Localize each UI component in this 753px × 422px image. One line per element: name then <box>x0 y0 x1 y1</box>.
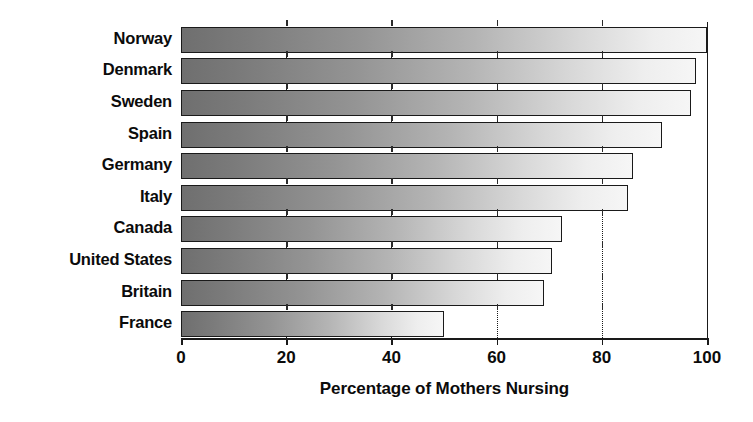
bar-fill-denmark <box>181 58 696 84</box>
grid-tick-stub <box>602 241 604 247</box>
grid-tick-stub <box>602 209 604 215</box>
bar-fill-sweden <box>181 90 691 116</box>
grid-tick-stub <box>391 83 393 89</box>
grid-tick-stub <box>497 51 499 57</box>
category-label-sweden: Sweden <box>0 93 172 110</box>
grid-tick-stub <box>497 115 499 121</box>
bar-fill-spain <box>181 122 662 148</box>
grid-tick-stub <box>391 20 393 26</box>
bar-britain <box>181 280 550 306</box>
bar-italy <box>181 185 634 211</box>
category-label-united-states: United States <box>0 251 172 268</box>
bar-united-states <box>181 248 558 274</box>
grid-tick-stub <box>391 273 393 279</box>
grid-tick-stub <box>602 115 604 121</box>
axis-tick-label-40: 40 <box>361 349 421 366</box>
bar-fill-italy <box>181 185 628 211</box>
bar-spain <box>181 122 668 148</box>
axis-tick-60 <box>497 338 499 345</box>
bar-germany <box>181 153 639 179</box>
grid-tick-stub <box>391 51 393 57</box>
grid-tick-stub <box>391 209 393 215</box>
axis-tick-80 <box>602 338 604 345</box>
bar-chart: Norway Denmark Sweden Spain Germany Ital… <box>0 0 753 422</box>
bar-fill-britain <box>181 280 544 306</box>
grid-tick-stub <box>497 209 499 215</box>
category-label-germany: Germany <box>0 156 172 173</box>
axis-tick-0 <box>181 338 183 345</box>
category-label-britain: Britain <box>0 283 172 300</box>
grid-tick-stub <box>602 304 604 310</box>
grid-tick-stub <box>497 178 499 184</box>
category-label-france: France <box>0 314 172 331</box>
axis-tick-20 <box>286 338 288 345</box>
grid-tick-stub <box>286 146 288 152</box>
bar-fill-germany <box>181 153 633 179</box>
grid-tick-stub <box>602 51 604 57</box>
bar-sweden <box>181 90 697 116</box>
axis-tick-100 <box>707 338 709 345</box>
grid-tick-stub <box>497 304 499 310</box>
grid-tick-stub <box>286 241 288 247</box>
category-label-spain: Spain <box>0 125 172 142</box>
axis-line-100 <box>707 22 708 338</box>
axis-tick-label-80: 80 <box>572 349 632 366</box>
category-label-canada: Canada <box>0 219 172 236</box>
grid-tick-stub <box>286 51 288 57</box>
grid-tick-stub <box>391 146 393 152</box>
grid-tick-stub <box>497 146 499 152</box>
axis-tick-label-60: 60 <box>467 349 527 366</box>
grid-tick-stub <box>497 241 499 247</box>
grid-tick-stub <box>391 115 393 121</box>
bar-fill-canada <box>181 216 562 242</box>
category-axis-labels: Norway Denmark Sweden Spain Germany Ital… <box>0 22 172 338</box>
category-label-norway: Norway <box>0 30 172 47</box>
grid-tick-stub <box>602 178 604 184</box>
bar-france <box>181 311 450 337</box>
grid-tick-stub <box>391 178 393 184</box>
bar-denmark <box>181 58 702 84</box>
axis-tick-label-20: 20 <box>256 349 316 366</box>
value-axis-line <box>181 338 708 340</box>
grid-tick-stub <box>286 115 288 121</box>
grid-tick-stub <box>497 20 499 26</box>
axis-tick-label-0: 0 <box>151 349 211 366</box>
grid-tick-stub <box>391 241 393 247</box>
grid-tick-stub <box>497 273 499 279</box>
grid-tick-stub <box>286 273 288 279</box>
grid-tick-stub <box>286 209 288 215</box>
bar-canada <box>181 216 568 242</box>
x-axis-title: Percentage of Mothers Nursing <box>181 380 708 397</box>
axis-tick-40 <box>391 338 393 345</box>
bar-fill-france <box>181 311 444 337</box>
grid-tick-stub <box>286 83 288 89</box>
grid-tick-stub <box>602 273 604 279</box>
grid-tick-stub <box>602 20 604 26</box>
grid-tick-stub <box>602 146 604 152</box>
bar-fill-norway <box>181 27 707 53</box>
bar-fill-united-states <box>181 248 552 274</box>
axis-tick-label-100: 100 <box>677 349 737 366</box>
category-label-italy: Italy <box>0 188 172 205</box>
grid-tick-stub <box>602 83 604 89</box>
grid-tick-stub <box>286 20 288 26</box>
category-label-denmark: Denmark <box>0 61 172 78</box>
grid-tick-stub <box>286 178 288 184</box>
grid-tick-stub <box>391 304 393 310</box>
grid-tick-stub <box>497 83 499 89</box>
grid-tick-stub <box>286 304 288 310</box>
plot-area <box>181 22 707 338</box>
bar-norway <box>181 27 713 53</box>
